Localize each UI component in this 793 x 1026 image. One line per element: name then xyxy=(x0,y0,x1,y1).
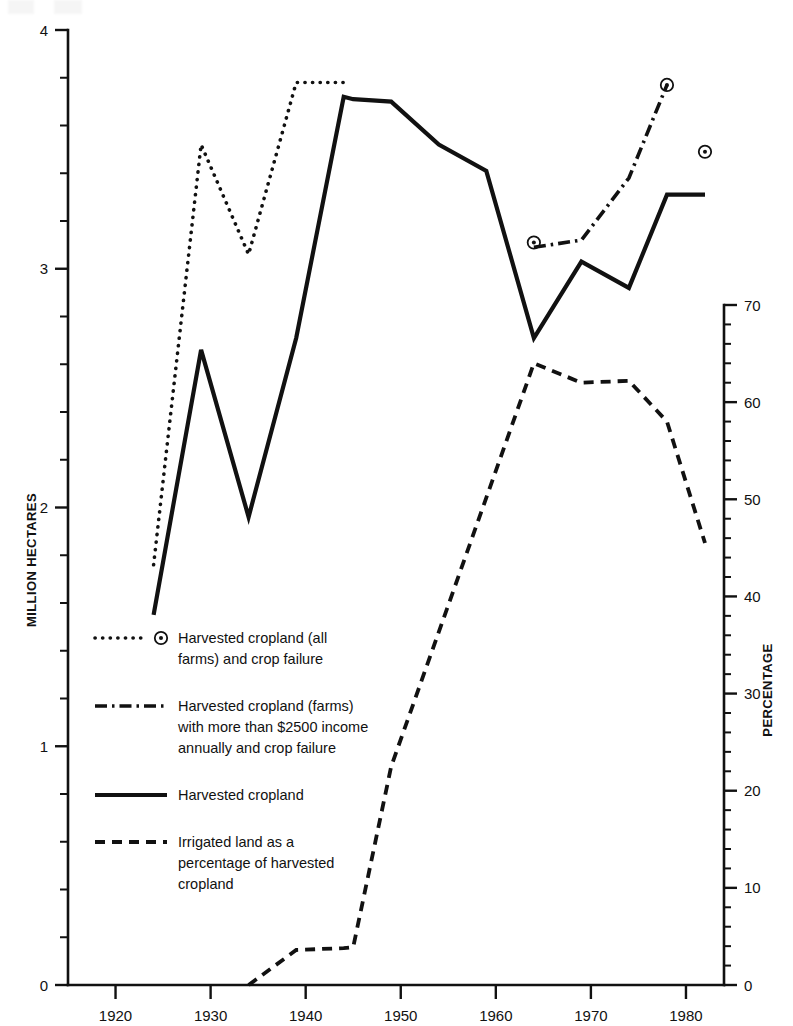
left-axis: 01234 MILLION HECTARES xyxy=(24,22,68,994)
chart-figure: 01234 MILLION HECTARES 19201930194019501… xyxy=(0,0,793,1026)
data-point-marker-dot xyxy=(532,240,536,244)
left-axis-tick-label: 4 xyxy=(40,22,48,39)
right-axis: 010203040506070 PERCENTAGE xyxy=(724,297,775,994)
legend-entry-label: Harvested cropland xyxy=(178,787,304,803)
left-axis-tick-label: 1 xyxy=(40,738,48,755)
series-irrigated-land-percentage xyxy=(249,363,705,985)
x-axis-tick-label: 1920 xyxy=(99,1007,132,1024)
x-axis-tick-label: 1940 xyxy=(289,1007,322,1024)
x-axis-tick-label: 1950 xyxy=(384,1007,417,1024)
right-axis-title: PERCENTAGE xyxy=(760,643,775,736)
legend-entry-label: Harvested cropland (farms) xyxy=(178,698,354,714)
x-axis-tick-label: 1930 xyxy=(194,1007,227,1024)
right-axis-tick-label: 70 xyxy=(744,297,761,314)
right-axis-tick-label: 50 xyxy=(744,491,761,508)
chart-legend: Harvested cropland (allfarms) and crop f… xyxy=(95,630,368,892)
left-axis-tick-label: 0 xyxy=(40,977,48,994)
legend-entry-label: cropland xyxy=(178,876,234,892)
legend-entry-label: annually and crop failure xyxy=(178,740,336,756)
x-axis-tick-label: 1970 xyxy=(574,1007,607,1024)
left-axis-tick-labels: 01234 xyxy=(40,22,48,994)
data-point-marker-dot xyxy=(703,150,707,154)
right-axis-tick-label: 20 xyxy=(744,782,761,799)
series-harvested-cropland xyxy=(154,97,705,615)
legend-entry-label: farms) and crop failure xyxy=(178,651,323,667)
right-axis-tick-label: 40 xyxy=(744,588,761,605)
chart-plot-area: 01234 MILLION HECTARES 19201930194019501… xyxy=(0,0,793,1026)
legend-entry-label: Irrigated land as a xyxy=(178,834,295,850)
legend-entry-label: with more than $2500 income xyxy=(177,719,368,735)
right-axis-tick-label: 10 xyxy=(744,879,761,896)
x-axis-tick-label: 1980 xyxy=(669,1007,702,1024)
data-point-marker-dot xyxy=(665,83,669,87)
right-axis-tick-labels: 010203040506070 xyxy=(744,297,761,994)
left-axis-tick-label: 3 xyxy=(40,260,48,277)
right-axis-tick-label: 0 xyxy=(744,977,752,994)
legend-entry-label: Harvested cropland (all xyxy=(178,630,327,646)
legend-marker-dot xyxy=(159,636,163,640)
x-axis-tick-label: 1960 xyxy=(479,1007,512,1024)
x-axis-tick-labels: 1920193019401950196019701980 xyxy=(99,1007,703,1024)
right-axis-tick-label: 30 xyxy=(744,685,761,702)
right-axis-tick-label: 60 xyxy=(744,394,761,411)
legend-entry-label: percentage of harvested xyxy=(178,855,334,871)
bottom-axis: 1920193019401950196019701980 xyxy=(68,985,724,1024)
series-markers xyxy=(528,79,712,249)
series-harvested-cropland-2500-income-crop-failure xyxy=(534,85,667,247)
left-axis-title: MILLION HECTARES xyxy=(24,493,39,627)
series-harvested-cropland-all-farms-crop-failure xyxy=(154,83,344,565)
left-axis-tick-label: 2 xyxy=(40,499,48,516)
x-axis-major-ticks xyxy=(116,985,686,999)
right-axis-major-ticks xyxy=(724,305,737,985)
